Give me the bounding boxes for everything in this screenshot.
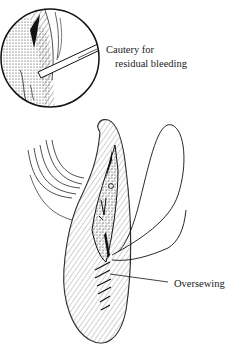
oversewing-label: Oversewing	[174, 278, 225, 290]
inset-magnified-view	[0, 5, 100, 110]
cautery-label-line2: residual bleeding	[115, 58, 187, 70]
main-organ-drawing	[28, 120, 186, 343]
surgical-illustration: Cautery for residual bleeding Oversewing	[0, 0, 241, 352]
cautery-label-line1: Cautery for	[106, 44, 154, 56]
